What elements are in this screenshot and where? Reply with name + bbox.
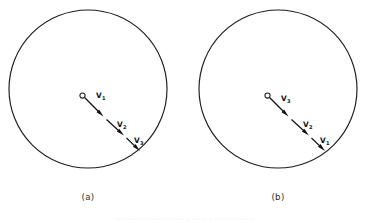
panel-b-label-V3: V3 (281, 94, 291, 104)
figure-canvas: V1 V2 V3 (a) V3 (0, 0, 370, 223)
panel-a-label-V2: V2 (117, 120, 127, 130)
panel-b-vector-V1: V1 (312, 136, 331, 151)
panel-a: V1 V2 V3 (a) (9, 10, 167, 202)
panel-a-label-V1: V1 (96, 91, 106, 101)
footer-text-fragment: ··· ·· ···· ·· ··· ···· ·· ··· ····· ·· … (0, 215, 370, 223)
panel-a-vector-V2: V2 (107, 120, 128, 136)
panel-b-vector-V2: V2 (292, 120, 314, 136)
panel-a-vector-V1: V1 (85, 91, 106, 117)
panel-a-caption: (a) (82, 192, 95, 202)
panel-b-vector-V3: V3 (270, 94, 291, 117)
panel-a-vector-V3: V3 (127, 136, 145, 151)
figure-root: V1 V2 V3 (a) V3 (0, 0, 370, 223)
panel-b-origin-marker (265, 93, 270, 98)
panel-b-label-V1: V1 (320, 136, 330, 146)
panel-b-caption: (b) (271, 192, 284, 202)
panel-b-label-V2: V2 (303, 120, 313, 130)
panel-b: V3 V2 V1 (b) (199, 10, 357, 202)
panel-b-circle-outline (199, 10, 357, 168)
panel-a-origin-marker (80, 93, 85, 98)
panel-a-label-V3: V3 (134, 136, 144, 146)
